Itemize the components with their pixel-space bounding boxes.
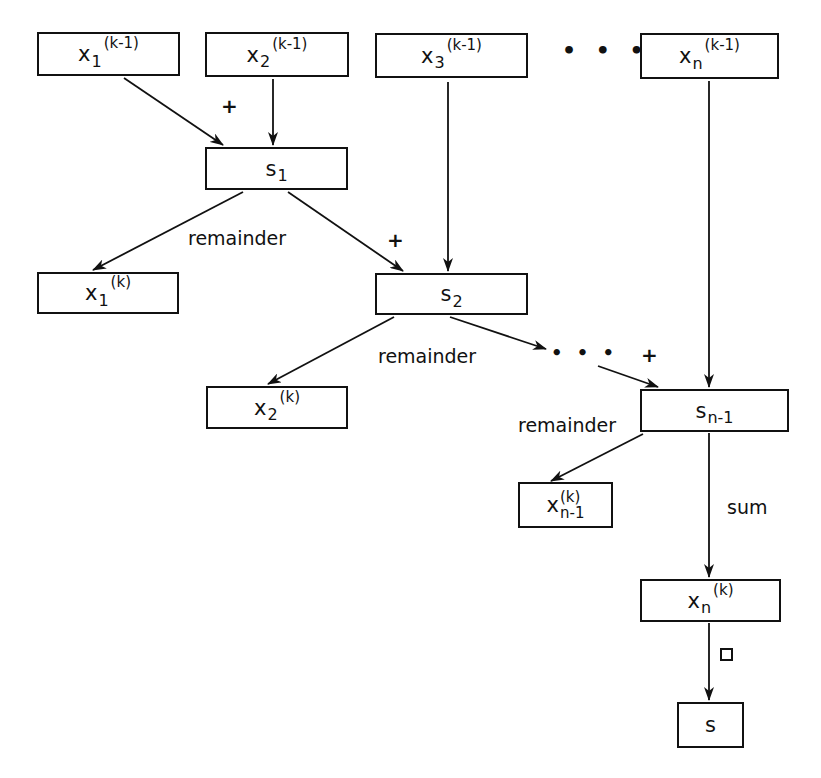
plus-label-1: + [221,94,238,118]
node-sup: (k-1) [104,34,139,52]
node-sub: n-1 [707,408,733,427]
node-x-n-minus-1-k: x (k) n-1 [518,482,613,528]
middle-ellipsis: • • • [551,342,618,363]
node-base: x [421,44,433,68]
node-base: s [265,157,276,181]
node-sub: 2 [260,52,270,71]
node-sup: (k) [111,273,131,291]
node-base: x [247,43,259,67]
node-base: x [78,42,90,66]
end-of-proof-square-icon [720,648,733,661]
node-x1-k-minus-1: x1(k-1) [37,32,180,76]
remainder-label-1: remainder [188,227,286,249]
node-sub: 2 [267,405,277,424]
node-x2-k-minus-1: x2(k-1) [205,32,349,77]
plus-label-2: + [387,228,404,252]
node-sub: n [692,54,702,73]
node-base: x [85,281,97,305]
node-base: x [254,396,266,420]
node-sup: (k) [560,489,580,505]
inputs-ellipsis: • • • [562,38,650,63]
node-sub: 2 [452,292,462,311]
edge-s1-s2 [288,192,403,271]
node-sub: 3 [434,53,444,72]
node-sub: n-1 [560,505,584,521]
node-xn-k-minus-1: xn(k-1) [640,33,779,79]
node-sup: (k) [280,388,300,406]
node-x1-k: x1(k) [37,272,179,314]
edge-x1-s1 [124,78,223,145]
node-base: x [688,589,700,613]
plus-label-3: + [641,343,658,367]
node-s1: s1 [205,147,348,190]
node-sub: 1 [98,291,108,310]
node-base: s [705,713,716,737]
sum-label: sum [727,496,767,518]
node-s-final: s [677,702,744,748]
node-sup: (k) [713,581,733,599]
node-sub: 1 [277,166,287,185]
node-base: s [695,399,706,423]
remainder-label-3: remainder [518,414,616,436]
remainder-label-2: remainder [378,345,476,367]
node-sup-sub-stack: (k) n-1 [560,489,584,521]
node-sub: 1 [91,52,101,71]
node-s-n-minus-1: sn-1 [640,389,789,432]
edge-sn1-xn1k [551,434,643,481]
node-sub: n [701,598,711,617]
node-base: s [440,282,451,306]
node-base: x [547,493,559,517]
node-base: x [679,44,691,68]
node-sup: (k-1) [705,36,740,54]
node-sup: (k-1) [272,35,307,53]
node-s2: s2 [375,273,528,315]
edge-s2-x2k [268,317,394,384]
edge-dots-sn1 [598,366,658,387]
node-x2-k: x2(k) [206,386,348,429]
node-xn-k: xn(k) [640,579,781,622]
node-x3-k-minus-1: x3(k-1) [375,33,528,78]
node-sup: (k-1) [447,36,482,54]
